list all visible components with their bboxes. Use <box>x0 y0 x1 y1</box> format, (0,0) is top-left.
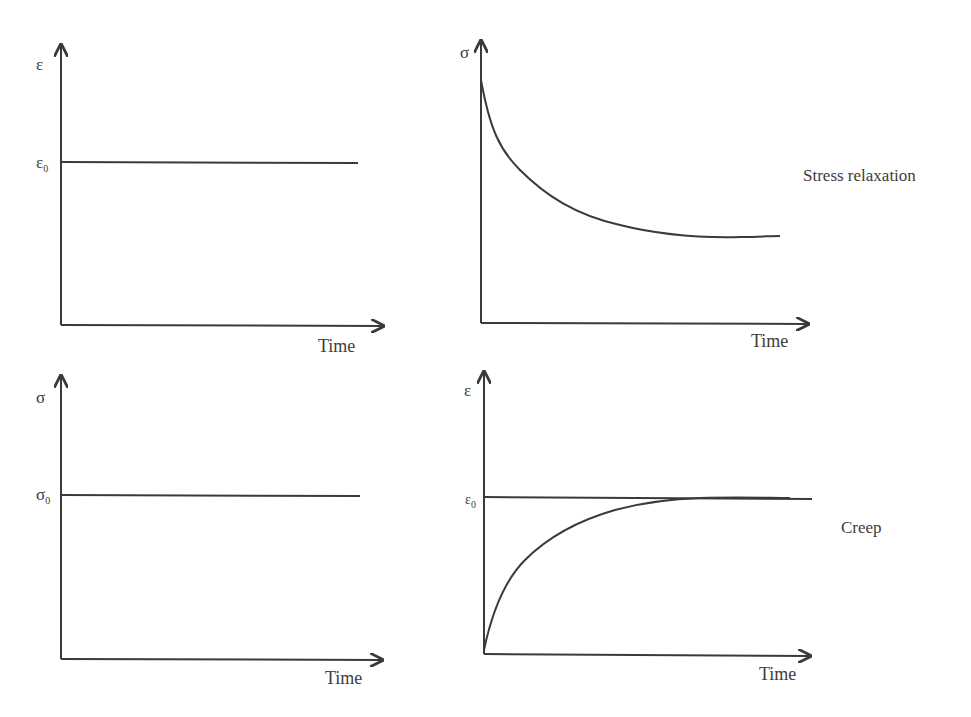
caption-creep: Creep <box>841 518 882 537</box>
x-axis <box>61 325 382 326</box>
constant-strain-line <box>61 162 358 163</box>
relaxation-curve <box>481 80 780 237</box>
x-axis <box>484 654 809 656</box>
panel-strain-response-creep: ε ε0 Time <box>464 373 812 684</box>
x-axis <box>481 323 807 324</box>
level-label: ε0 <box>465 492 476 510</box>
viscoelastic-diagram: ε ε0 Time σ Time Stress relaxation σ σ0 … <box>0 0 971 717</box>
y-axis-label: σ <box>36 388 45 407</box>
x-axis <box>61 659 381 660</box>
constant-stress-line <box>61 495 360 496</box>
y-axis-label: ε <box>464 381 471 400</box>
x-axis-label: Time <box>751 331 788 351</box>
level-label: ε0 <box>36 153 48 174</box>
level-label: σ0 <box>36 485 50 506</box>
y-axis-label: σ <box>460 43 469 62</box>
x-axis-label: Time <box>759 664 796 684</box>
x-axis-label: Time <box>318 336 355 356</box>
y-axis-label: ε <box>36 55 43 74</box>
panel-stress-input-creep: σ σ0 Time <box>36 377 381 688</box>
panel-stress-response-relaxation: σ Time <box>460 42 807 351</box>
x-axis-label: Time <box>325 668 362 688</box>
panel-strain-input-relaxation: ε ε0 Time <box>36 46 382 356</box>
caption-stress-relaxation: Stress relaxation <box>803 166 916 185</box>
creep-curve <box>484 498 790 650</box>
